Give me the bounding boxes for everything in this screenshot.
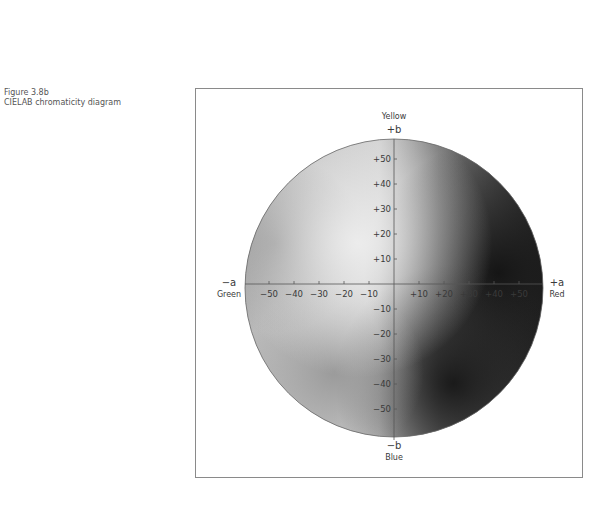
svg-text:−20: −20	[373, 329, 391, 339]
svg-text:+40: +40	[485, 289, 503, 299]
cielab-diagram: Yellow +b −b Blue −a Green +a Red −50 −4…	[0, 0, 612, 510]
svg-text:−40: −40	[285, 289, 303, 299]
plus-b-label: +b	[387, 124, 402, 135]
svg-text:−50: −50	[260, 289, 278, 299]
svg-text:+10: +10	[410, 289, 428, 299]
svg-text:−20: −20	[335, 289, 353, 299]
svg-text:−40: −40	[373, 379, 391, 389]
svg-text:−30: −30	[373, 354, 391, 364]
svg-text:+20: +20	[435, 289, 453, 299]
svg-text:+50: +50	[510, 289, 528, 299]
svg-text:+30: +30	[373, 204, 391, 214]
svg-text:−10: −10	[360, 289, 378, 299]
svg-text:+40: +40	[373, 179, 391, 189]
red-label: Red	[549, 290, 564, 299]
green-label: Green	[217, 290, 241, 299]
svg-text:−10: −10	[373, 304, 391, 314]
blue-label: Blue	[385, 453, 403, 462]
yellow-label: Yellow	[381, 112, 407, 121]
svg-text:+10: +10	[373, 254, 391, 264]
svg-text:+50: +50	[373, 154, 391, 164]
minus-a-label: −a	[222, 277, 237, 288]
svg-text:+20: +20	[373, 229, 391, 239]
plus-a-label: +a	[550, 277, 565, 288]
svg-text:−30: −30	[310, 289, 328, 299]
svg-text:+30: +30	[460, 289, 478, 299]
minus-b-label: −b	[387, 440, 402, 451]
svg-text:−50: −50	[373, 404, 391, 414]
